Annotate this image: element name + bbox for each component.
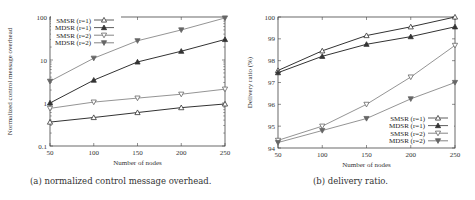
- data-point-marker: [408, 97, 413, 102]
- x-tick-label: 100: [317, 151, 328, 159]
- y-tick-label: 95: [268, 123, 276, 131]
- delivery-ratio-chart: 50100150200250949596979899100Number of n…: [0, 0, 475, 172]
- y-tick-label: 94: [268, 145, 276, 153]
- caption-b: (b) delivery ratio.: [313, 176, 388, 186]
- y-tick-label: 97: [268, 79, 276, 87]
- x-tick-label: 50: [275, 151, 283, 159]
- legend: SMSR (r=1)MDSR (r=1)SMSR (r=2)MDSR (r=2): [380, 113, 454, 145]
- series-1: [275, 24, 457, 75]
- x-axis-label: Number of nodes: [342, 161, 391, 169]
- y-axis-label: Delivery ratio (%): [246, 56, 254, 108]
- x-tick-label: 200: [406, 151, 417, 159]
- y-tick-label: 98: [268, 57, 276, 65]
- data-point-marker: [408, 75, 413, 80]
- data-point-marker: [364, 102, 369, 107]
- y-tick-label: 96: [268, 101, 276, 109]
- data-point-marker: [275, 140, 280, 145]
- caption-a: (a) normalized control message overhead.: [30, 176, 211, 186]
- data-point-marker: [452, 24, 457, 29]
- y-tick-label: 100: [265, 14, 276, 22]
- data-point-marker: [452, 43, 457, 48]
- legend-label: MDSR (r=2): [389, 137, 426, 145]
- y-tick-label: 99: [268, 35, 276, 43]
- x-tick-label: 250: [450, 151, 461, 159]
- x-tick-label: 150: [361, 151, 372, 159]
